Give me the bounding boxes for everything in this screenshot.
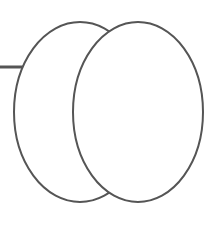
diagram-canvas (0, 0, 218, 229)
overlapping-ellipses-diagram (0, 0, 218, 229)
front-ellipse (73, 22, 203, 202)
